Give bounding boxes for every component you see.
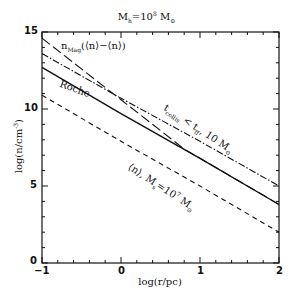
y-tick-label: 10	[24, 102, 38, 113]
x-axis-label: log(r/pc)	[110, 276, 210, 287]
plot-area	[0, 0, 293, 294]
x-tick-label: 0	[118, 265, 125, 276]
y-tick-label: 0	[30, 255, 37, 266]
y-tick-label: 15	[24, 25, 38, 36]
x-tick-label: −1	[34, 265, 49, 276]
y-axis-label: log(n/cm-3)	[12, 96, 24, 196]
x-tick-label: 2	[276, 265, 283, 276]
y-tick-label: 5	[30, 179, 37, 190]
series-line-dash-dot	[42, 54, 279, 186]
plot-frame	[42, 32, 279, 263]
series-line-dashed	[42, 95, 279, 232]
chart-title: Mh=108 M⊙	[0, 10, 293, 24]
x-tick-label: 1	[197, 265, 204, 276]
annotation-nmag: nMag(⟨n⟩−⟨n⟩)	[61, 40, 126, 53]
